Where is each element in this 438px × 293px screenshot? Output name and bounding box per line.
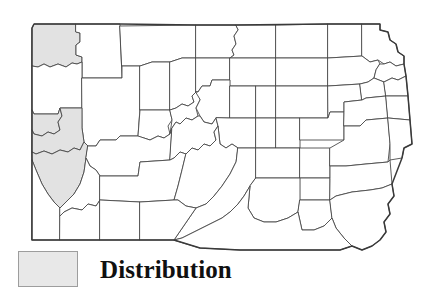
distribution-swatch	[18, 251, 78, 287]
map-legend: Distribution	[18, 248, 318, 290]
county-sanborn	[276, 118, 300, 148]
county-butte	[32, 62, 82, 114]
distribution-map-figure: Distribution	[0, 0, 438, 293]
county-brule	[216, 118, 256, 148]
county-hyde	[230, 86, 256, 118]
county-marshall	[328, 24, 362, 58]
county-brown	[276, 24, 328, 58]
county-spink	[276, 58, 328, 86]
county-campbell	[196, 25, 238, 58]
county-edmunds	[230, 58, 276, 86]
county-hamlin	[386, 96, 410, 120]
county-harding	[32, 24, 82, 67]
county-mccook	[300, 148, 330, 178]
county-dewey	[170, 58, 196, 110]
county-haakon	[138, 110, 172, 140]
county-hand	[256, 86, 276, 118]
county-hutchinson	[256, 148, 300, 178]
legend-label: Distribution	[100, 257, 232, 282]
county-meade	[82, 66, 140, 146]
county-layer	[32, 24, 412, 250]
county-lower-central	[100, 200, 140, 240]
county-turner	[300, 178, 330, 200]
county-beadle	[276, 86, 328, 118]
county-ziebach	[140, 62, 170, 110]
county-moody	[388, 118, 412, 160]
county-perkins	[76, 24, 122, 78]
county-aurora	[256, 118, 276, 148]
